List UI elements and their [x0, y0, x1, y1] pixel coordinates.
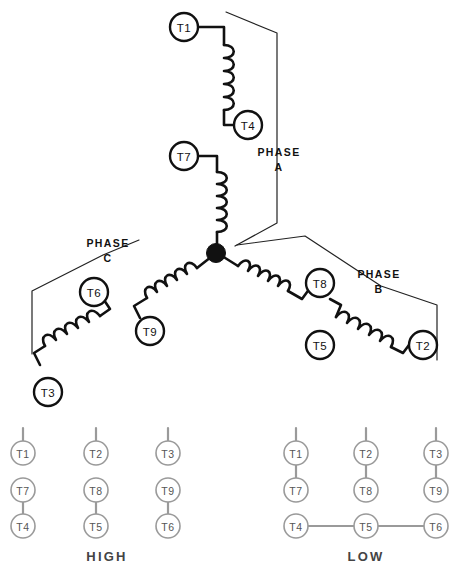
terminal-t3-label: T3	[41, 387, 56, 399]
svg-text:PHASE: PHASE	[357, 268, 400, 280]
svg-text:T3: T3	[429, 448, 442, 460]
high-terminal-t4[interactable]: T4	[11, 514, 35, 538]
terminal-t7[interactable]: T7	[170, 142, 198, 170]
high-terminal-t2[interactable]: T2	[84, 441, 108, 465]
coil-t6-t3	[34, 300, 110, 365]
svg-text:T6: T6	[161, 521, 174, 533]
svg-text:T7: T7	[16, 485, 29, 497]
svg-text:T8: T8	[359, 485, 372, 497]
terminal-t6[interactable]: T6	[80, 278, 108, 306]
terminal-t1-label: T1	[177, 22, 192, 34]
high-terminal-t9[interactable]: T9	[156, 478, 180, 502]
terminal-t8[interactable]: T8	[306, 269, 334, 297]
svg-text:A: A	[275, 161, 284, 173]
low-terminal-t6[interactable]: T6	[424, 514, 448, 538]
terminal-t2-label: T2	[416, 340, 431, 352]
terminal-t4-label: T4	[241, 120, 256, 132]
svg-text:C: C	[104, 252, 113, 264]
svg-text:T4: T4	[289, 521, 302, 533]
high-connection-table: T1 T2 T3 T7 T8 T9	[11, 428, 180, 564]
svg-text:T3: T3	[161, 448, 174, 460]
high-terminal-t7[interactable]: T7	[11, 478, 35, 502]
terminal-t5-label: T5	[313, 340, 328, 352]
svg-text:T2: T2	[359, 448, 372, 460]
winding-diagram-page: T1 T4 T7 T8 T5 T2 T9 T6	[0, 0, 464, 578]
coil-t1-t4	[196, 27, 235, 125]
svg-text:T5: T5	[89, 521, 102, 533]
terminal-t9[interactable]: T9	[136, 317, 164, 345]
high-terminal-t6[interactable]: T6	[156, 514, 180, 538]
svg-text:T5: T5	[359, 521, 372, 533]
low-terminal-t2[interactable]: T2	[354, 441, 378, 465]
coil-t8-neutral	[222, 256, 310, 299]
svg-text:B: B	[375, 283, 384, 295]
terminal-t9-label: T9	[143, 326, 158, 338]
svg-text:T8: T8	[89, 485, 102, 497]
high-terminal-t5[interactable]: T5	[84, 514, 108, 538]
terminal-t8-label: T8	[313, 278, 328, 290]
coil-t5-t2	[330, 299, 409, 353]
terminal-t5[interactable]: T5	[306, 331, 334, 359]
svg-text:PHASE: PHASE	[257, 146, 300, 158]
terminal-t6-label: T6	[87, 287, 102, 299]
low-terminal-t7[interactable]: T7	[284, 478, 308, 502]
terminal-t3[interactable]: T3	[34, 378, 62, 406]
svg-text:T1: T1	[289, 448, 302, 460]
terminal-t4[interactable]: T4	[234, 111, 262, 139]
coil-t7-neutral	[196, 156, 227, 250]
svg-text:T1: T1	[16, 448, 29, 460]
svg-text:T2: T2	[89, 448, 102, 460]
low-terminal-t9[interactable]: T9	[424, 478, 448, 502]
high-table-title: HIGH	[86, 549, 127, 564]
coil-t9-neutral	[134, 257, 211, 318]
phase-b-bracket	[237, 236, 437, 360]
low-terminal-t3[interactable]: T3	[424, 441, 448, 465]
low-terminal-t1[interactable]: T1	[284, 441, 308, 465]
diagram-canvas: T1 T4 T7 T8 T5 T2 T9 T6	[0, 0, 464, 578]
high-terminal-t8[interactable]: T8	[84, 478, 108, 502]
high-terminal-t1[interactable]: T1	[11, 441, 35, 465]
svg-text:T7: T7	[289, 485, 302, 497]
low-terminal-t5[interactable]: T5	[354, 514, 378, 538]
low-connection-table: T1 T2 T3 T7 T8 T9	[284, 428, 448, 564]
svg-text:PHASE: PHASE	[86, 237, 129, 249]
low-table-title: LOW	[348, 549, 385, 564]
terminal-t7-label: T7	[177, 151, 192, 163]
svg-text:T4: T4	[16, 521, 29, 533]
svg-text:T9: T9	[161, 485, 174, 497]
phase-a-label: PHASE A	[257, 146, 300, 173]
low-terminal-t8[interactable]: T8	[354, 478, 378, 502]
high-terminal-t3[interactable]: T3	[156, 441, 180, 465]
svg-text:T6: T6	[429, 521, 442, 533]
neutral-junction-dot	[207, 244, 226, 263]
low-terminal-t4[interactable]: T4	[284, 514, 308, 538]
svg-text:T9: T9	[429, 485, 442, 497]
terminal-t2[interactable]: T2	[409, 331, 437, 359]
terminal-t1[interactable]: T1	[170, 13, 198, 41]
